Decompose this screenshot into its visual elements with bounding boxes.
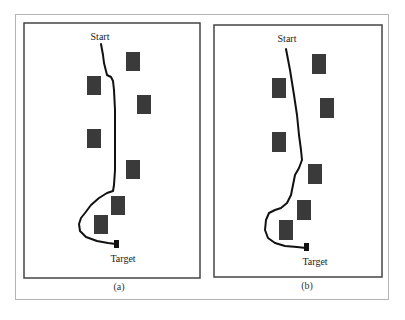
obstacle: [126, 52, 140, 71]
start-label: Start: [278, 33, 297, 44]
obstacle: [111, 196, 125, 215]
obstacle: [308, 164, 322, 184]
panel-a: StartTarget(a): [24, 23, 200, 293]
panel-frame: [214, 25, 382, 277]
obstacle: [94, 215, 108, 234]
target-marker: [304, 243, 309, 251]
obstacle: [297, 200, 311, 220]
target-label: Target: [302, 256, 327, 267]
figure: StartTarget(a) StartTarget(b): [0, 0, 405, 320]
panel-frame: [24, 23, 200, 278]
obstacle: [87, 76, 101, 95]
panel-b: StartTarget(b): [214, 25, 382, 292]
start-label: Start: [91, 31, 110, 42]
panel-caption: (b): [301, 280, 313, 292]
target-marker: [114, 240, 119, 248]
obstacle: [137, 95, 151, 114]
obstacle: [279, 220, 293, 240]
obstacle: [126, 160, 140, 179]
target-label: Target: [110, 253, 135, 264]
obstacle: [87, 129, 101, 148]
obstacle: [272, 78, 286, 98]
panel-caption: (a): [113, 281, 124, 293]
obstacle: [272, 132, 286, 152]
obstacle: [320, 98, 334, 118]
obstacle: [312, 54, 326, 74]
